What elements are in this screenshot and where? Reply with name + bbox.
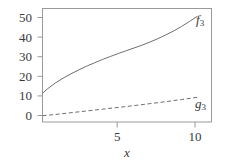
- x-tick-marks: [117, 122, 195, 128]
- y-tick-label-0: 0: [6, 109, 32, 122]
- x-tick-label-10: 10: [183, 130, 207, 143]
- plot-frame: [43, 9, 212, 123]
- curve-label-f3-subscript: 3: [200, 18, 205, 28]
- x-axis-title: x: [115, 146, 139, 159]
- curve-label-g3: g3: [195, 97, 206, 110]
- y-tick-marks: [38, 18, 43, 116]
- chart-figure: 50 40 30 20 10 0 5 10 x f3 g3: [0, 0, 228, 164]
- y-tick-label-30: 30: [6, 50, 32, 63]
- y-tick-label-40: 40: [6, 31, 32, 44]
- x-tick-label-5: 5: [105, 130, 129, 143]
- y-tick-label-10: 10: [6, 89, 32, 102]
- y-tick-label-20: 20: [6, 70, 32, 83]
- curve-label-g3-subscript: 3: [202, 102, 207, 112]
- y-tick-label-50: 50: [6, 11, 32, 24]
- curve-label-f3: f3: [196, 13, 204, 26]
- curve-label-g3-base: g: [195, 96, 202, 111]
